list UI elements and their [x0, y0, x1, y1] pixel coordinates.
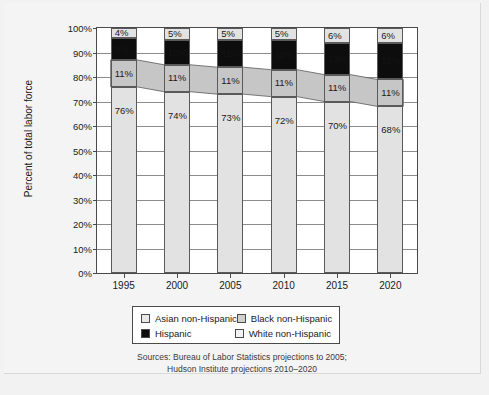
bar-segment-hispanic[interactable]: 15% — [377, 43, 403, 80]
bar-segment-asian[interactable]: 6% — [377, 28, 403, 43]
legend-swatch-asian-icon — [141, 314, 150, 323]
legend-item-black-non-hispanic: Black non-Hispanic — [237, 313, 332, 324]
x-axis-tick-label: 2020 — [365, 280, 415, 291]
stacked-bar[interactable]: 68%11%15%6% — [377, 28, 403, 273]
legend-row: Hispanic White non-Hispanic — [141, 326, 331, 341]
bar-segment-white[interactable]: 73% — [217, 94, 243, 273]
bar-segment-black[interactable]: 11% — [377, 79, 403, 106]
sources-line-2: Hudson Institute projections 2010–2020 — [4, 363, 480, 375]
bar-segment-asian[interactable]: 4% — [111, 28, 137, 38]
bar-segment-value-label: 11% — [218, 76, 239, 86]
stacked-bar[interactable]: 74%11%10%5% — [164, 28, 190, 273]
bar-segment-hispanic[interactable]: 12% — [271, 40, 297, 69]
y-axis-tick-label: 30% — [73, 194, 92, 205]
x-axis-tick-mark — [390, 273, 391, 278]
bar-segment-value-label: 68% — [378, 125, 400, 135]
bar-segment-black[interactable]: 11% — [271, 70, 297, 97]
y-axis-tick-label: 80% — [73, 72, 92, 83]
sources-note: Sources: Bureau of Labor Statistics proj… — [4, 351, 480, 376]
y-axis-tick-label: 70% — [73, 96, 92, 107]
legend-label-asian: Asian non-Hispanic — [155, 313, 237, 324]
bar-segment-white[interactable]: 72% — [271, 97, 297, 273]
bar-segment-value-label: 6% — [325, 31, 342, 41]
legend-label-white: White non-Hispanic — [249, 328, 331, 339]
legend-item-asian-non-hispanic: Asian non-Hispanic — [141, 313, 237, 324]
y-axis-tick-label: 50% — [73, 145, 92, 156]
chart-page: Percent of total labor force 0%10%20%30%… — [0, 0, 489, 395]
bar-segment-value-label: 12% — [272, 50, 294, 60]
bar-segment-value-label: 5% — [272, 29, 289, 39]
chart-legend: Asian non-Hispanic Black non-Hispanic Hi… — [132, 306, 340, 344]
y-axis-tick-label: 20% — [73, 219, 92, 230]
legend-label-hispanic: Hispanic — [155, 328, 191, 339]
x-axis-tick-label: 2000 — [152, 280, 202, 291]
y-axis-tick-label: 40% — [73, 170, 92, 181]
bar-segment-hispanic[interactable]: 11% — [217, 40, 243, 67]
bar-segment-white[interactable]: 74% — [164, 92, 190, 273]
y-axis-title: Percent of total labor force — [23, 29, 34, 249]
y-axis-tick-label: 100% — [68, 23, 92, 34]
bar-segment-white[interactable]: 68% — [377, 106, 403, 273]
x-axis-tick-mark — [284, 273, 285, 278]
y-axis-tick-label: 60% — [73, 121, 92, 132]
legend-item-hispanic: Hispanic — [141, 328, 235, 339]
plot-area: 0%10%20%30%40%50%60%70%80%90%100%76%11%9… — [96, 27, 418, 274]
bar-segment-hispanic[interactable]: 10% — [164, 40, 190, 65]
x-axis-tick-mark — [177, 273, 178, 278]
bar-segment-value-label: 11% — [218, 49, 239, 59]
legend-swatch-white-icon — [235, 329, 244, 338]
bar-segment-value-label: 11% — [112, 69, 133, 79]
y-axis-tick-label: 10% — [73, 243, 92, 254]
bar-segment-value-label: 74% — [165, 111, 187, 121]
bar-segment-value-label: 72% — [272, 116, 294, 126]
bar-segment-black[interactable]: 11% — [324, 75, 350, 102]
stacked-bar[interactable]: 73%11%11%5% — [217, 28, 243, 273]
x-axis-tick-mark — [230, 273, 231, 278]
legend-swatch-black-icon — [237, 314, 246, 323]
x-axis-tick-label: 2015 — [312, 280, 362, 291]
legend-swatch-hispanic-icon — [141, 329, 150, 338]
bar-segment-asian[interactable]: 6% — [324, 28, 350, 43]
bar-segment-value-label: 15% — [378, 56, 400, 66]
bar-segment-value-label: 11% — [325, 83, 346, 93]
bar-segment-white[interactable]: 76% — [111, 87, 137, 273]
bar-segment-black[interactable]: 11% — [164, 65, 190, 92]
y-axis-tick-mark — [93, 273, 97, 274]
bar-segment-value-label: 11% — [165, 73, 186, 83]
bar-segment-value-label: 11% — [272, 78, 293, 88]
bar-segment-hispanic[interactable]: 9% — [111, 38, 137, 60]
bar-segment-asian[interactable]: 5% — [217, 28, 243, 40]
x-axis-tick-mark — [124, 273, 125, 278]
bar-segment-hispanic[interactable]: 13% — [324, 43, 350, 75]
bar-segment-asian[interactable]: 5% — [271, 28, 297, 40]
bar-segment-value-label: 9% — [112, 44, 129, 54]
x-axis-tick-label: 2005 — [205, 280, 255, 291]
bar-segment-value-label: 5% — [165, 29, 182, 39]
legend-label-black: Black non-Hispanic — [251, 313, 332, 324]
stacked-bar[interactable]: 72%11%12%5% — [271, 28, 297, 273]
bar-segment-value-label: 76% — [112, 106, 134, 116]
bar-segment-value-label: 73% — [218, 113, 240, 123]
y-axis-tick-label: 0% — [78, 268, 92, 279]
bar-segment-black[interactable]: 11% — [111, 60, 137, 87]
series-connector-bands — [97, 28, 417, 273]
bar-segment-white[interactable]: 70% — [324, 102, 350, 274]
bar-segment-asian[interactable]: 5% — [164, 28, 190, 40]
bar-segment-black[interactable]: 11% — [217, 67, 243, 94]
sources-line-1: Sources: Bureau of Labor Statistics proj… — [4, 351, 480, 363]
chart-panel: Percent of total labor force 0%10%20%30%… — [4, 3, 481, 374]
stacked-bar[interactable]: 70%11%13%6% — [324, 28, 350, 273]
bar-segment-value-label: 10% — [165, 48, 187, 58]
x-axis-tick-mark — [337, 273, 338, 278]
plot-wrapper: Percent of total labor force 0%10%20%30%… — [4, 3, 480, 373]
stacked-bar[interactable]: 76%11%9%4% — [111, 28, 137, 273]
legend-row: Asian non-Hispanic Black non-Hispanic — [141, 311, 331, 326]
bar-segment-value-label: 70% — [325, 121, 347, 131]
legend-item-white-non-hispanic: White non-Hispanic — [235, 328, 331, 339]
bar-segment-value-label: 4% — [112, 28, 129, 38]
bar-segment-value-label: 6% — [378, 31, 395, 41]
bar-segment-value-label: 13% — [325, 54, 347, 64]
x-axis-tick-label: 2010 — [259, 280, 309, 291]
bar-segment-value-label: 5% — [218, 29, 235, 39]
y-axis-tick-label: 90% — [73, 47, 92, 58]
